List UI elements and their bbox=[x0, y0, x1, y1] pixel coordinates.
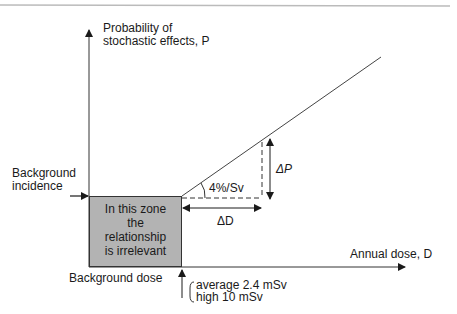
zone-text-line: the bbox=[90, 216, 181, 230]
background-dose-high: high 10 mSv bbox=[196, 291, 287, 303]
delta-d-label: ΔD bbox=[217, 215, 234, 228]
x-axis-label: Annual dose, D bbox=[350, 248, 432, 261]
background-dose-label: Background dose bbox=[69, 272, 162, 285]
brace bbox=[190, 282, 194, 302]
delta-p-label: ΔP bbox=[276, 163, 292, 176]
zone-text-line: In this zone bbox=[90, 202, 181, 216]
irrelevant-zone-box: In this zone the relationship is irrelev… bbox=[89, 196, 182, 267]
zone-text-line: is irrelevant bbox=[90, 244, 181, 258]
zone-text-line: relationship bbox=[90, 230, 181, 244]
slope-label: 4%/Sv bbox=[209, 182, 244, 195]
y-axis-label: Probability of stochastic effects, P bbox=[103, 22, 210, 48]
background-incidence-label: Background incidence bbox=[12, 167, 76, 193]
y-axis-label-line2: stochastic effects, P bbox=[103, 35, 210, 48]
background-dose-values: average 2.4 mSv high 10 mSv bbox=[196, 279, 287, 303]
bg-incidence-line2: incidence bbox=[12, 180, 76, 193]
top-rule bbox=[0, 5, 450, 6]
diagram-canvas bbox=[0, 0, 457, 314]
slope-angle-arc bbox=[201, 183, 205, 198]
